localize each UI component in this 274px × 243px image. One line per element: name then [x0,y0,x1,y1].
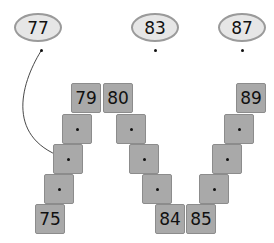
tile-dot [76,128,79,131]
answer-bubble-83: 83 [131,13,179,42]
blank-tile-86 [199,174,229,204]
answer-bubble-87: 87 [218,13,266,42]
tile-dot [213,188,216,191]
tile-dot [67,158,70,161]
tile-label: 89 [240,88,262,108]
tile-label: 75 [39,209,61,229]
answer-bubble-77: 77 [14,13,62,42]
tile-label: 79 [75,88,97,108]
blank-tile-77 [53,144,83,174]
blank-tile-78 [62,114,92,144]
number-tile-80: 80 [103,83,133,113]
blank-tile-88 [224,114,254,144]
tile-dot [156,188,159,191]
tile-dot [130,128,133,131]
tile-label: 85 [190,209,212,229]
blank-tile-83 [142,174,172,204]
blank-tile-82 [129,144,159,174]
blank-tile-81 [116,114,146,144]
tile-label: 80 [107,88,129,108]
blank-tile-76 [44,174,74,204]
bubble-anchor-dot [40,49,43,52]
tile-label: 84 [159,209,181,229]
number-tile-84: 84 [155,204,185,234]
number-tile-89: 89 [236,83,266,113]
tile-dot [58,188,61,191]
tile-dot [143,158,146,161]
number-tile-75: 75 [35,204,65,234]
blank-tile-87 [212,144,242,174]
tile-dot [226,158,229,161]
bubble-anchor-dot [241,49,244,52]
number-tile-85: 85 [186,204,216,234]
bubble-anchor-dot [154,49,157,52]
number-tile-79: 79 [71,83,101,113]
tile-dot [238,128,241,131]
